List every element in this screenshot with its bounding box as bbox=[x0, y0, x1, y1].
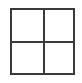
grid-2x2-icon bbox=[10, 8, 75, 75]
grid-layout-tile[interactable] bbox=[0, 0, 82, 83]
grid-horizontal-divider bbox=[12, 41, 73, 43]
